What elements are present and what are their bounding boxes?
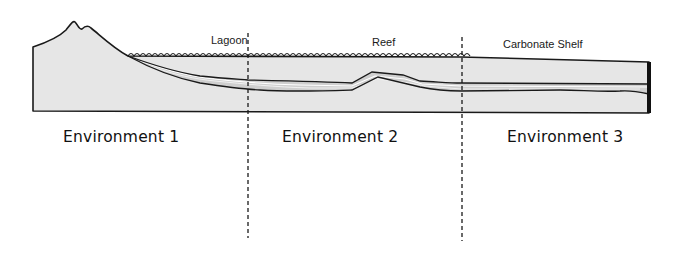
- region-label-reef: Reef: [372, 36, 396, 48]
- rock-body: [33, 22, 649, 113]
- environment-label-2: Environment 2: [282, 128, 398, 146]
- environment-label-3: Environment 3: [507, 128, 623, 146]
- right-edge-bar: [647, 62, 651, 113]
- cross-section-diagram: Lagoon Reef Carbonate Shelf Environment …: [0, 0, 684, 257]
- region-label-carbonate-shelf: Carbonate Shelf: [503, 38, 583, 50]
- environment-label-1: Environment 1: [63, 128, 179, 146]
- region-label-lagoon: Lagoon: [211, 34, 248, 46]
